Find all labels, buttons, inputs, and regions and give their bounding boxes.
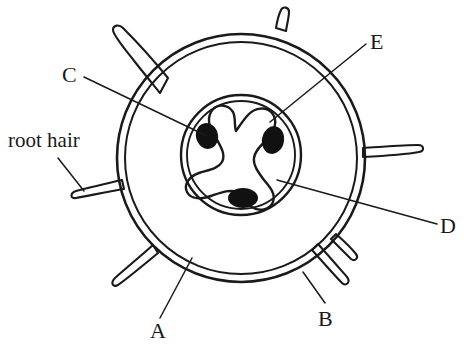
- root-hair-top-right: [276, 8, 289, 31]
- phloem-bottom-dot: [228, 188, 258, 208]
- leader-line-a: [160, 258, 192, 318]
- leader-line-root-hair: [58, 158, 84, 191]
- label-c: C: [62, 64, 77, 86]
- cortex-inner-circle: [125, 42, 357, 274]
- root-hair-right: [363, 145, 423, 157]
- leader-line-d: [277, 180, 437, 224]
- root-hair-lower-left: [112, 245, 158, 286]
- root-hair-upper-left: [113, 26, 168, 93]
- label-e: E: [370, 31, 383, 53]
- label-d: D: [440, 215, 456, 237]
- phloem-right-dot: [260, 124, 287, 155]
- label-a: A: [150, 320, 166, 342]
- epidermis-outer-circle: [117, 34, 365, 282]
- root-diagram-canvas: [0, 0, 470, 357]
- root-cross-section-diagram: root hair C E D A B: [0, 0, 470, 357]
- root-hair-left: [72, 180, 125, 198]
- leader-line-e: [270, 44, 366, 122]
- leader-line-b: [303, 272, 325, 303]
- label-b: B: [318, 308, 333, 330]
- label-root-hair: root hair: [8, 130, 80, 151]
- leader-line-c: [84, 77, 207, 136]
